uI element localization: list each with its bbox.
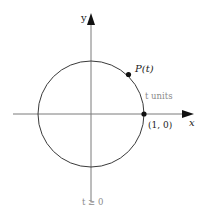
arc-length-label: t units	[145, 91, 173, 101]
point-one-zero	[141, 111, 146, 116]
y-axis-label: y	[80, 12, 87, 23]
point-p-of-t	[126, 72, 131, 77]
unit-circle-diagram: y x P(t) t units (1, 0) t ≥ 0	[0, 0, 207, 216]
x-axis-label: x	[189, 117, 195, 128]
point-p-label: P(t)	[134, 63, 154, 74]
y-axis-arrow-icon	[87, 13, 95, 25]
condition-label: t ≥ 0	[82, 197, 103, 207]
start-point-label: (1, 0)	[148, 120, 172, 130]
